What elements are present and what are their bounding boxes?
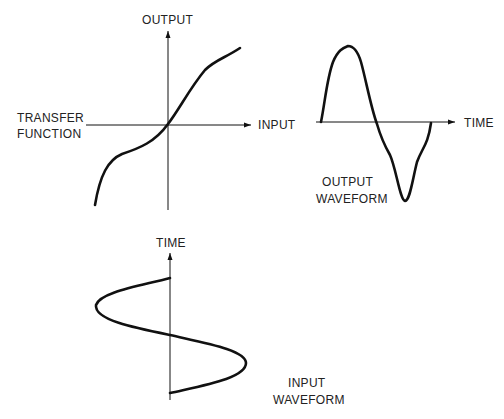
input-axis-label: INPUT: [258, 118, 296, 133]
input-waveform-time-label: TIME: [156, 236, 186, 251]
output-axis-label: OUTPUT: [142, 13, 193, 28]
output-waveform-title-line1: OUTPUT: [322, 175, 373, 190]
input-waveform-title-line2: WAVEFORM: [273, 393, 345, 408]
transfer-function-title-line1: TRANSFER: [17, 111, 84, 126]
input-waveform-curve: [96, 278, 246, 393]
transfer-function-plot: [86, 31, 251, 210]
output-waveform-title-line2: WAVEFORM: [316, 192, 388, 207]
output-waveform-time-label: TIME: [464, 116, 494, 131]
input-waveform-title-line1: INPUT: [288, 376, 326, 391]
transfer-function-title-line2: FUNCTION: [17, 127, 81, 142]
diagram-canvas: [0, 0, 504, 419]
input-waveform-plot: [96, 253, 246, 400]
